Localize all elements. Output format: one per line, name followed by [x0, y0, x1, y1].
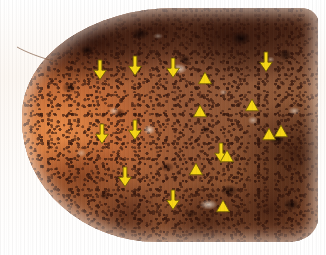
arrowhead-icon — [198, 72, 212, 84]
down-arrow-icon — [259, 52, 273, 72]
down-arrow-icon — [93, 60, 107, 80]
arrowhead-icon — [216, 200, 230, 212]
down-arrow-icon — [95, 124, 109, 144]
down-arrow-icon — [166, 190, 180, 210]
figure-photomicrograph — [0, 0, 326, 255]
arrowhead-icon — [189, 163, 203, 175]
down-arrow-icon — [128, 56, 142, 76]
arrowhead-icon — [274, 125, 288, 137]
arrowhead-icon — [193, 105, 207, 117]
arrowhead-icon — [245, 99, 259, 111]
down-arrow-icon — [118, 167, 132, 187]
arrowhead-icon — [220, 150, 234, 162]
down-arrow-icon — [166, 58, 180, 78]
down-arrow-icon — [128, 120, 142, 140]
